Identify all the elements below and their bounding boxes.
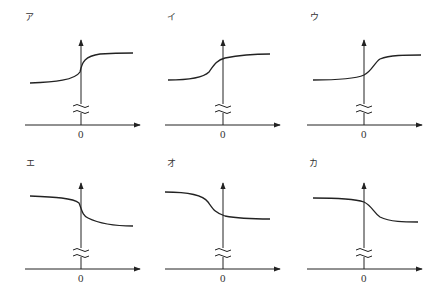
panel-ka: カ 0 — [307, 158, 422, 284]
panel-u: ウ 0 — [307, 12, 422, 140]
panel-label: カ — [309, 158, 318, 168]
panel-label: エ — [26, 158, 35, 168]
curve — [313, 198, 418, 222]
panel-i: イ 0 — [165, 12, 280, 140]
origin-label: 0 — [361, 128, 367, 140]
origin-label: 0 — [78, 128, 84, 140]
origin-label: 0 — [361, 272, 367, 284]
panel-label: イ — [167, 12, 176, 22]
figure: ア 0 イ 0 ウ 0 エ 0 オ — [0, 0, 447, 297]
panel-a: ア 0 — [25, 12, 140, 140]
curve — [165, 192, 270, 219]
panel-label: ウ — [310, 12, 319, 22]
panel-label: ア — [25, 12, 34, 22]
curve — [313, 55, 421, 80]
curve — [168, 54, 270, 80]
origin-label: 0 — [220, 128, 226, 140]
panel-label: オ — [167, 158, 176, 168]
panel-o: オ 0 — [165, 158, 280, 284]
origin-label: 0 — [78, 272, 84, 284]
origin-label: 0 — [220, 272, 226, 284]
panel-e: エ 0 — [25, 158, 140, 284]
